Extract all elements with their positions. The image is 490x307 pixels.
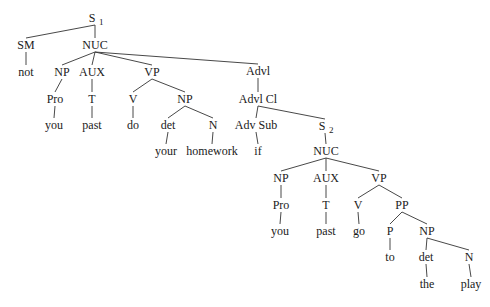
tree-edge-vp2-v2: [358, 185, 379, 198]
tree-node-det1: det: [161, 118, 176, 132]
tree-node-past2: past: [316, 224, 336, 238]
tree-node-n2: N: [465, 250, 474, 264]
tree-node-aux1: AUX: [79, 65, 105, 79]
tree-node-go: go: [353, 224, 365, 238]
tree-node-play: play: [461, 277, 482, 291]
tree-edge-vp1-np2: [152, 79, 185, 92]
tree-node-s1: S: [89, 11, 96, 25]
tree-node-np1: NP: [54, 65, 70, 79]
tree-node-if: if: [254, 144, 261, 158]
tree-edge-pro1-you1: [54, 106, 55, 118]
tree-node-pro1: Pro: [47, 92, 64, 106]
tree-edge-vp2-pp: [379, 185, 402, 198]
tree-node-vp1: VP: [144, 65, 160, 79]
tree-node-advlcl: Advl Cl: [239, 92, 278, 106]
tree-edge-nuc2-vp2: [326, 158, 379, 171]
tree-node-v1: V: [129, 92, 138, 106]
tree-node-np4: NP: [419, 224, 435, 238]
tree-node-np3: NP: [273, 171, 289, 185]
syntax-tree: S1SMNUCnotNPAUXVPAdvlProTVNPAdvl Clyoupa…: [0, 0, 490, 307]
tree-edge-np2-det1: [168, 106, 185, 118]
tree-node-you2: you: [271, 224, 289, 238]
tree-edge-np1-pro1: [55, 79, 62, 92]
tree-node-vp2: VP: [371, 171, 387, 185]
tree-edge-s2-nuc2: [325, 133, 326, 144]
tree-node-p: P: [387, 224, 394, 238]
tree-edge-nuc1-aux1: [92, 52, 95, 65]
tree-edge-nuc2-np3: [281, 158, 326, 171]
tree-edge-np4-n2: [427, 238, 469, 250]
tree-node-you1: you: [45, 118, 63, 132]
tree-node-pp: PP: [395, 198, 409, 212]
tree-node-np2: NP: [177, 92, 193, 106]
tree-edge-n1-homework: [212, 132, 213, 144]
tree-edge-nuc1-np1: [62, 52, 95, 65]
tree-nodes: S1SMNUCnotNPAUXVPAdvlProTVNPAdvl Clyoupa…: [17, 11, 481, 291]
tree-node-advsub: Adv Sub: [235, 118, 277, 132]
tree-edge-det2-the: [426, 264, 427, 277]
tree-edges: [26, 25, 471, 277]
tree-node-your: your: [155, 144, 177, 158]
tree-node-s2-subscript: 2: [329, 125, 334, 135]
tree-edge-advsub-if: [256, 132, 258, 144]
tree-edge-det1-your: [166, 132, 168, 144]
tree-node-s1-subscript: 1: [99, 17, 104, 27]
tree-node-not: not: [18, 65, 34, 79]
tree-node-nuc1: NUC: [82, 38, 107, 52]
tree-node-aux2: AUX: [313, 171, 339, 185]
tree-node-det2: det: [419, 250, 434, 264]
tree-node-the: the: [420, 277, 435, 291]
tree-node-pro2: Pro: [273, 198, 290, 212]
tree-node-past1: past: [82, 118, 102, 132]
tree-node-s2: S: [319, 119, 326, 133]
tree-node-t1: T: [88, 92, 96, 106]
tree-edge-n2-play: [469, 264, 471, 277]
tree-node-n1: N: [209, 118, 218, 132]
tree-edge-vp1-v1: [133, 79, 152, 92]
tree-edge-pp-p: [390, 212, 402, 224]
tree-node-to: to: [385, 250, 394, 264]
tree-node-t2: T: [322, 198, 330, 212]
tree-edge-pro2-you2: [280, 212, 281, 224]
tree-node-advl: Advl: [246, 64, 271, 78]
tree-node-nuc2: NUC: [313, 144, 338, 158]
tree-edge-s1-sm: [26, 25, 95, 38]
tree-node-homework: homework: [186, 144, 237, 158]
tree-node-v2: V: [354, 198, 363, 212]
tree-edge-np4-det2: [426, 238, 427, 250]
tree-node-do: do: [127, 118, 139, 132]
tree-node-sm: SM: [17, 38, 35, 52]
tree-edge-advlcl-advsub: [256, 106, 258, 118]
tree-edge-np2-n1: [185, 106, 213, 118]
tree-edge-v2-go: [358, 212, 359, 224]
tree-edge-pp-np4: [402, 212, 427, 224]
